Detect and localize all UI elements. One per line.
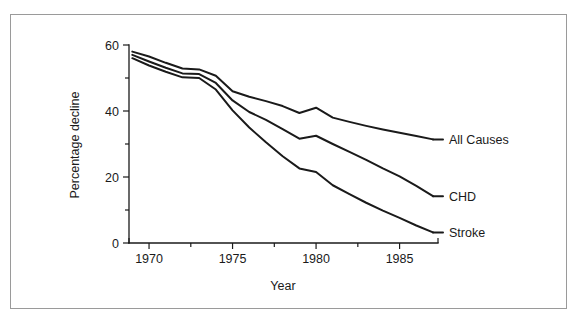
series-label-chd: CHD: [449, 190, 476, 204]
y-tick-label: 40: [105, 105, 119, 119]
y-tick-label: 20: [105, 171, 119, 185]
series-line-stroke: [132, 58, 433, 232]
x-tick-label: 1985: [386, 252, 414, 266]
series-label-stroke: Stroke: [449, 226, 485, 240]
y-tick-label: 0: [112, 237, 119, 251]
x-tick-label: 1980: [302, 252, 330, 266]
y-axis-title: Percentage decline: [68, 91, 82, 198]
y-axis-ticks: [123, 45, 129, 243]
series-leader-lines: [433, 139, 443, 232]
series-labels: All CausesCHDStroke: [449, 133, 509, 240]
x-axis-title: Year: [270, 279, 295, 293]
line-chart: 0204060 1970197519801985 All CausesCHDSt…: [0, 0, 581, 326]
x-tick-label: 1975: [219, 252, 247, 266]
y-tick-label: 60: [105, 39, 119, 53]
figure: 0204060 1970197519801985 All CausesCHDSt…: [0, 0, 581, 326]
series-lines: [132, 52, 433, 233]
series-label-all-causes: All Causes: [449, 133, 509, 147]
y-axis-tick-labels: 0204060: [105, 39, 119, 251]
x-tick-label: 1970: [135, 252, 163, 266]
x-axis-tick-labels: 1970197519801985: [135, 252, 413, 266]
series-line-all-causes: [132, 52, 433, 140]
